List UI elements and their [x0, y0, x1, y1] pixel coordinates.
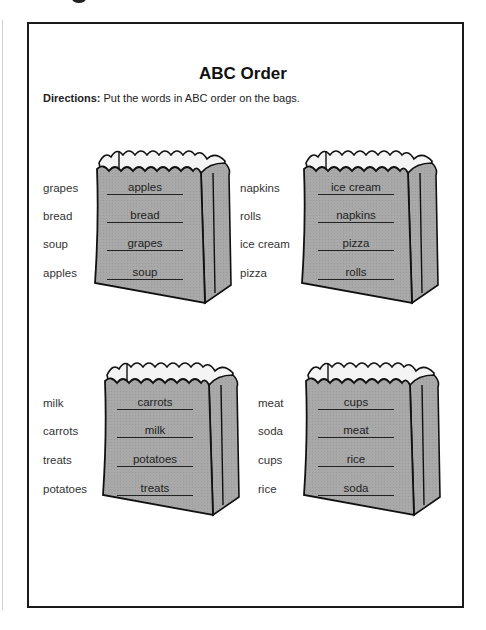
answer-line[interactable]: milk — [117, 424, 193, 438]
word-item: rice — [258, 483, 277, 495]
word-item: napkins — [240, 182, 280, 194]
word-item: rolls — [240, 210, 261, 222]
word-item: soup — [43, 238, 68, 250]
word-item: bread — [43, 210, 72, 222]
word-item: grapes — [43, 182, 78, 194]
answer-line[interactable]: rice — [318, 453, 394, 467]
word-item: ice cream — [240, 238, 290, 250]
answer-line[interactable]: potatoes — [117, 453, 193, 467]
answer-line[interactable]: pizza — [318, 237, 394, 251]
answer-line[interactable]: meat — [318, 424, 394, 438]
word-item: meat — [258, 397, 284, 409]
answer-line[interactable]: ice cream — [318, 181, 394, 195]
answer-line[interactable]: rolls — [318, 266, 394, 280]
answer-line[interactable]: treats — [117, 482, 193, 496]
word-item: potatoes — [43, 483, 87, 495]
word-item: milk — [43, 397, 63, 409]
word-item: treats — [43, 454, 72, 466]
word-item: pizza — [240, 267, 267, 279]
answer-line[interactable]: cups — [318, 396, 394, 410]
word-item: apples — [43, 267, 77, 279]
word-item: cups — [258, 454, 282, 466]
answer-line[interactable]: carrots — [117, 396, 193, 410]
answer-line[interactable]: grapes — [107, 237, 183, 251]
answer-line[interactable]: soup — [107, 266, 183, 280]
answer-line[interactable]: soda — [318, 482, 394, 496]
answer-line[interactable]: apples — [107, 181, 183, 195]
grocery-bags-illustration — [0, 0, 486, 630]
answer-line[interactable]: napkins — [318, 209, 394, 223]
word-item: soda — [258, 425, 283, 437]
answer-line[interactable]: bread — [107, 209, 183, 223]
word-item: carrots — [43, 425, 78, 437]
